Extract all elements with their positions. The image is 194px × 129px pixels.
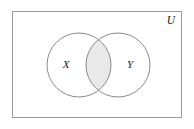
set-x-label: X: [62, 58, 71, 70]
venn-diagram-canvas: X Y U: [0, 0, 194, 129]
universe-label: U: [167, 14, 176, 26]
venn-diagram-figure: X Y U: [0, 0, 194, 129]
